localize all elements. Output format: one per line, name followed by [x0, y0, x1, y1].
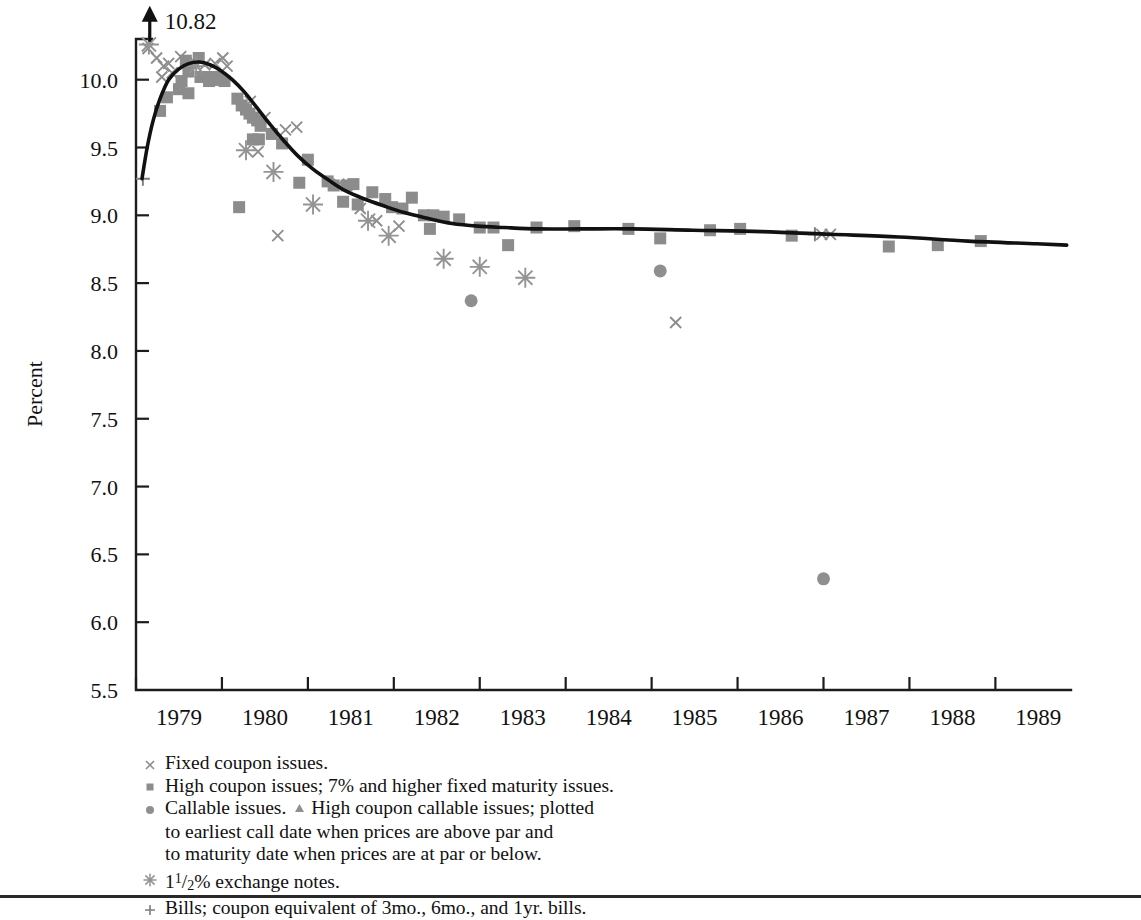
marker-star [186, 56, 206, 76]
footer-rule [0, 895, 1141, 898]
series-circle [465, 264, 830, 585]
x-tick-label: 1989 [1015, 705, 1061, 730]
legend-label-high-coupon-callable: High coupon callable issues; plotted [311, 797, 594, 818]
circle-marker-icon [137, 797, 163, 820]
off-scale-annotation: 10.82 [142, 6, 217, 42]
fit-curve [142, 62, 1067, 245]
x-tick-label: 1979 [156, 705, 202, 730]
annotation-value-label: 10.82 [165, 9, 217, 34]
marker-circle [654, 264, 667, 277]
x-marker-icon [137, 752, 163, 775]
y-tick-label: 7.0 [91, 475, 119, 500]
marker-square [654, 232, 666, 244]
marker-star [264, 162, 284, 182]
marker-x [253, 146, 264, 157]
marker-square [734, 223, 746, 235]
marker-circle [465, 294, 478, 307]
marker-square [233, 201, 245, 213]
marker-square [502, 239, 514, 251]
marker-x [156, 71, 167, 82]
y-tick-label: 5.5 [91, 678, 119, 703]
legend-item-callable: Callable issues.High coupon callable iss… [137, 797, 837, 821]
x-tick-label: 1982 [414, 705, 460, 730]
y-tick-label: 9.5 [91, 136, 119, 161]
legend-label-high-coupon: High coupon issues; 7% and higher fixed … [163, 775, 614, 798]
x-tick-label: 1980 [242, 705, 288, 730]
marker-x [280, 124, 291, 135]
y-tick-label: 6.0 [91, 610, 119, 635]
y-tick-labels: 10.09.59.08.58.07.57.06.56.05.5 [80, 68, 119, 703]
x-tick-label: 1987 [843, 705, 889, 730]
triangle-marker-icon [292, 798, 307, 821]
y-axis-title: Percent [22, 361, 47, 427]
marker-star [236, 140, 256, 160]
legend-label-fixed-coupon: Fixed coupon issues. [163, 752, 328, 775]
legend-continuation-line-1: to earliest call date when prices are ab… [137, 821, 837, 844]
marker-x [163, 58, 174, 69]
marker-circle [817, 572, 830, 585]
y-tick-label: 9.0 [91, 203, 119, 228]
series-square [154, 52, 987, 253]
marker-square [337, 196, 349, 208]
x-tick-label: 1985 [672, 705, 718, 730]
legend-exchange-prefix: 1 [165, 871, 175, 892]
x-tick-label: 1988 [929, 705, 975, 730]
legend-label-callable: Callable issues. [165, 797, 286, 818]
legend-fraction-numerator: 1 [175, 871, 182, 886]
y-tick-label: 10.0 [80, 68, 119, 93]
series-x [143, 43, 836, 328]
marker-star [303, 194, 323, 214]
marker-square [293, 177, 305, 189]
marker-star [515, 268, 535, 288]
annotation-arrow-head [142, 6, 158, 22]
x-tick-label: 1981 [328, 705, 374, 730]
marker-star [358, 211, 378, 231]
marker-star [379, 226, 399, 246]
marker-x [272, 230, 283, 241]
plus-marker-icon [137, 897, 163, 920]
marker-square [347, 178, 359, 190]
legend-label-bills: Bills; coupon equivalent of 3mo., 6mo., … [163, 897, 586, 920]
y-tick-label: 6.5 [91, 542, 119, 567]
x-tick-labels: 1979198019811982198319841985198619871988… [156, 705, 1061, 730]
legend-item-bills: Bills; coupon equivalent of 3mo., 6mo., … [137, 897, 837, 920]
marker-x [670, 317, 681, 328]
marker-x [291, 122, 302, 133]
marker-star [470, 257, 490, 277]
legend-label-exchange-notes: % exchange notes. [194, 871, 340, 892]
marker-square [406, 192, 418, 204]
y-tick-label: 8.5 [91, 271, 119, 296]
square-marker-icon [137, 775, 163, 798]
marker-square [424, 223, 436, 235]
x-tick-label: 1983 [500, 705, 546, 730]
marker-square [255, 120, 267, 132]
marker-square [182, 87, 194, 99]
marker-square [253, 133, 265, 145]
marker-square [352, 198, 364, 210]
x-tick-label: 1984 [586, 705, 633, 730]
marker-star [434, 249, 454, 269]
y-tick-label: 8.0 [91, 339, 119, 364]
star-marker-icon [137, 868, 163, 891]
y-tick-label: 7.5 [91, 407, 119, 432]
legend-item-high-coupon: High coupon issues; 7% and higher fixed … [137, 775, 837, 798]
legend-item-exchange-notes: 11/2% exchange notes. [137, 868, 837, 898]
legend-continuation-line-2: to maturity date when prices are at par … [137, 843, 837, 866]
marker-square [366, 186, 378, 198]
legend-item-fixed-coupon: Fixed coupon issues. [137, 752, 837, 775]
marker-square [883, 241, 895, 253]
x-tick-label: 1986 [758, 705, 804, 730]
